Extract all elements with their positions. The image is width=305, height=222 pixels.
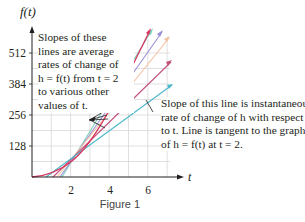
annotation-right: Slope of this line is instantaneous rate… <box>161 97 305 151</box>
annotation-left-line: h = f(t) from t = 2 <box>38 72 134 86</box>
y-tick-128: 128 <box>9 140 27 152</box>
annotation-left-line: rates of change of <box>38 58 134 72</box>
y-tick-512: 512 <box>9 47 27 59</box>
x-tick-2: 2 <box>68 184 74 196</box>
arrowheads <box>148 28 173 89</box>
annotation-right-line: Slope of this line is instantaneous <box>161 97 305 111</box>
annotation-right-line: of h = f(t) at t = 2. <box>161 138 305 152</box>
annotation-left-line: lines are average <box>38 45 134 59</box>
annotation-left-line: Slopes of these <box>38 31 134 45</box>
y-axis-arrow-icon <box>30 26 35 33</box>
annotation-right-line: to t. Line is tangent to the graph <box>161 124 305 138</box>
figure-caption: Figure 1 <box>0 198 240 210</box>
annotation-left-line: to various other <box>38 85 134 99</box>
x-tick-6: 6 <box>145 184 151 196</box>
x-axis-arrow-icon <box>177 175 184 180</box>
x-axis-label: t <box>188 170 192 184</box>
annotation-right-line: rate of change of h with respect <box>161 111 305 125</box>
y-tick-256: 256 <box>9 109 27 121</box>
y-axis-label: f(t) <box>20 4 36 19</box>
annotation-left-line: values of t. <box>38 99 134 113</box>
x-tick-4: 4 <box>107 184 113 196</box>
y-tick-384: 384 <box>9 78 27 90</box>
annotation-left: Slopes of these lines are average rates … <box>38 31 134 113</box>
